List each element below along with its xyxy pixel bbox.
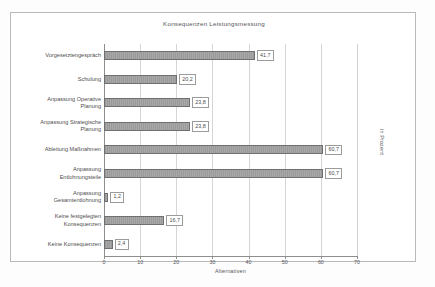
category-label-line: Anpassung (25, 166, 101, 173)
bar (104, 75, 177, 84)
bar-value-label: 41,7 (257, 50, 274, 61)
category-label: Ableitung Maßnahmen (25, 146, 101, 153)
category-label-line: Planung (25, 103, 101, 110)
x-tick-label: 20 (173, 259, 179, 265)
bar-value-label: 16,7 (166, 215, 183, 226)
category-label-line: Gesamtentlohnung (25, 197, 101, 204)
bar-row: 2,4 (104, 232, 357, 256)
bar-value-label: 23,8 (192, 97, 209, 108)
bar-row: 23,8 (104, 115, 357, 139)
category-label: Keine festgelegtenKonsequenzen (25, 213, 101, 227)
bar-value-label: 1,2 (110, 192, 124, 203)
category-label: AnpassungEntlohnungsteile (25, 166, 101, 180)
bar-row: 20,2 (104, 68, 357, 92)
x-axis-title: Alternativen (104, 268, 357, 274)
category-label-line: Planung (25, 126, 101, 133)
category-labels: VorgesetztengesprächSchulungAnpassung Op… (25, 44, 101, 256)
bar-row: 60,7 (104, 162, 357, 186)
bar-value-label: 2,4 (115, 239, 129, 250)
bar (104, 145, 323, 154)
bar (104, 193, 108, 202)
category-label: Anpassung StrategischePlanung (25, 119, 101, 133)
x-tick-label: 40 (246, 259, 252, 265)
bar-value-label: 60,7 (325, 145, 342, 156)
bar-row: 23,8 (104, 91, 357, 115)
scanned-page: Konsequenzen Leistungsmessung 41,720,223… (0, 0, 435, 287)
bar (104, 240, 113, 249)
bar (104, 169, 323, 178)
chart-frame: Konsequenzen Leistungsmessung 41,720,223… (10, 12, 416, 262)
bar-rows: 41,720,223,823,860,760,71,216,72,4 (104, 44, 357, 256)
category-label: Keine Konsequenzen (25, 241, 101, 248)
category-label-line: Schulung (25, 76, 101, 83)
bar-row: 60,7 (104, 138, 357, 162)
bar-value-label: 23,8 (192, 121, 209, 132)
category-label-line: Anpassung (25, 190, 101, 197)
category-label-line: Vorgesetztengespräch (25, 52, 101, 59)
bar (104, 122, 190, 131)
bar (104, 216, 164, 225)
category-label: Schulung (25, 76, 101, 83)
x-tick-label: 50 (282, 259, 288, 265)
x-tick-label: 0 (103, 259, 106, 265)
bar-row: 1,2 (104, 185, 357, 209)
x-axis-line (104, 256, 357, 257)
bar-value-label: 20,2 (179, 74, 196, 85)
x-tick-label: 10 (137, 259, 143, 265)
chart-title: Konsequenzen Leistungsmessung (11, 20, 417, 27)
bar (104, 98, 190, 107)
bar-value-label: 60,7 (325, 168, 342, 179)
gridline-70 (357, 44, 358, 256)
x-tick-label: 60 (318, 259, 324, 265)
category-label: AnpassungGesamtentlohnung (25, 190, 101, 204)
category-label: Vorgesetztengespräch (25, 52, 101, 59)
bar-row: 16,7 (104, 209, 357, 233)
secondary-axis-label: in Prozent (379, 129, 385, 155)
category-label-line: Keine Konsequenzen (25, 241, 101, 248)
plot-area: 41,720,223,823,860,760,71,216,72,4 (104, 44, 357, 256)
category-label: Anpassung OperativePlanung (25, 96, 101, 110)
bar-row: 41,7 (104, 44, 357, 68)
category-label-line: Keine festgelegten (25, 213, 101, 220)
category-label-line: Entlohnungsteile (25, 174, 101, 181)
x-tick-label: 70 (354, 259, 360, 265)
category-label-line: Ableitung Maßnahmen (25, 146, 101, 153)
category-label-line: Anpassung Operative (25, 96, 101, 103)
x-tick-label: 30 (209, 259, 215, 265)
bar (104, 51, 255, 60)
category-label-line: Anpassung Strategische (25, 119, 101, 126)
category-label-line: Konsequenzen (25, 221, 101, 228)
